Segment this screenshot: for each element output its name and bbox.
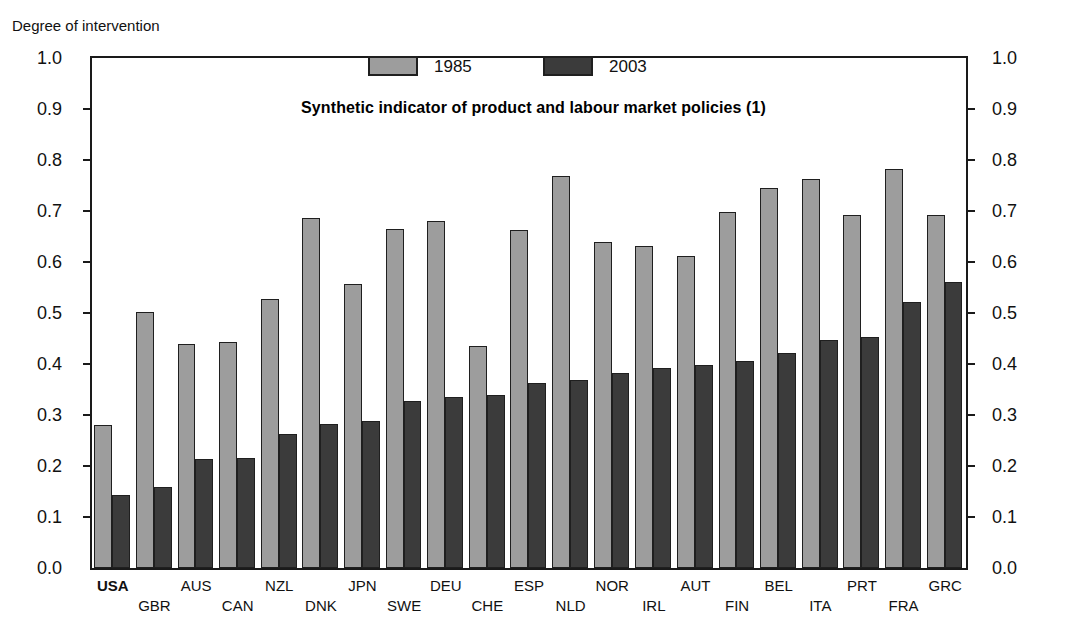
y-tick-mark-left [83, 312, 90, 314]
x-tick-label-che: CHE [457, 598, 517, 613]
y-tick-label-right: 1.0 [992, 49, 1017, 67]
bar-aut-1985 [677, 256, 695, 568]
y-tick-mark-left [83, 210, 90, 212]
x-tick-label-nzl: NZL [249, 578, 309, 593]
bar-gbr-1985 [136, 312, 154, 568]
bar-group [258, 58, 300, 568]
y-tick-label-right: 0.8 [992, 151, 1017, 169]
y-tick-mark-left [83, 261, 90, 263]
bar-ita-2003 [820, 340, 838, 568]
x-tick-label-grc: GRC [915, 578, 975, 593]
x-tick-label-nld: NLD [541, 598, 601, 613]
bar-group [383, 58, 425, 568]
bar-bel-1985 [760, 188, 778, 568]
y-tick-label-right: 0.6 [992, 253, 1017, 271]
y-tick-label-right: 0.2 [992, 457, 1017, 475]
bar-group [716, 58, 758, 568]
y-tick-mark-right [968, 516, 975, 518]
bar-che-1985 [469, 346, 487, 568]
y-tick-label-left: 0.0 [37, 559, 62, 577]
bar-fra-1985 [885, 169, 903, 568]
bar-nld-1985 [552, 176, 570, 568]
x-tick-label-prt: PRT [832, 578, 892, 593]
bar-fin-1985 [719, 212, 737, 568]
bar-usa-1985 [94, 425, 112, 568]
bar-grc-1985 [927, 215, 945, 568]
x-tick-label-esp: ESP [499, 578, 559, 593]
bar-jpn-1985 [344, 284, 362, 568]
bar-esp-2003 [528, 383, 546, 568]
x-tick-label-bel: BEL [749, 578, 809, 593]
bar-group [675, 58, 717, 568]
y-axis-caption: Degree of intervention [12, 18, 160, 33]
legend-label: 1985 [434, 58, 472, 75]
y-tick-label-right: 0.7 [992, 202, 1017, 220]
y-tick-mark-left [83, 159, 90, 161]
y-tick-mark-left [83, 414, 90, 416]
bar-group [508, 58, 550, 568]
bar-grc-2003 [945, 282, 963, 568]
bar-group [924, 58, 966, 568]
bar-group [217, 58, 259, 568]
bar-nzl-1985 [261, 299, 279, 568]
bar-aus-1985 [178, 344, 196, 568]
x-tick-label-aut: AUT [665, 578, 725, 593]
y-tick-label-left: 0.1 [37, 508, 62, 526]
legend-label: 2003 [609, 58, 647, 75]
bar-bel-2003 [778, 353, 796, 568]
y-tick-mark-right [968, 312, 975, 314]
y-tick-label-left: 0.3 [37, 406, 62, 424]
bar-dnk-1985 [302, 218, 320, 568]
y-tick-mark-right [968, 210, 975, 212]
bar-deu-2003 [445, 397, 463, 568]
bar-fin-2003 [736, 361, 754, 568]
y-tick-label-left: 0.2 [37, 457, 62, 475]
x-tick-label-fin: FIN [707, 598, 767, 613]
bar-irl-2003 [653, 368, 671, 568]
x-tick-label-dnk: DNK [291, 598, 351, 613]
bar-che-2003 [487, 395, 505, 568]
bar-can-2003 [237, 458, 255, 568]
y-tick-label-left: 0.5 [37, 304, 62, 322]
bar-group [591, 58, 633, 568]
bar-irl-1985 [635, 246, 653, 568]
x-tick-label-ita: ITA [790, 598, 850, 613]
y-tick-label-right: 0.3 [992, 406, 1017, 424]
y-tick-label-right: 0.4 [992, 355, 1017, 373]
y-tick-mark-left [83, 516, 90, 518]
bar-nor-2003 [612, 373, 630, 568]
legend-item-1985[interactable]: 1985 [368, 56, 472, 76]
x-tick-label-usa: USA [83, 578, 143, 593]
bar-dnk-2003 [320, 424, 338, 568]
y-tick-mark-right [968, 414, 975, 416]
x-tick-label-aus: AUS [166, 578, 226, 593]
bar-deu-1985 [427, 221, 445, 568]
bar-nld-2003 [570, 380, 588, 568]
x-tick-label-jpn: JPN [333, 578, 393, 593]
chart-subtitle: Synthetic indicator of product and labou… [0, 100, 1067, 116]
bar-usa-2003 [112, 495, 130, 568]
y-tick-mark-right [968, 261, 975, 263]
y-tick-label-right: 0.0 [992, 559, 1017, 577]
bar-group [92, 58, 134, 568]
bar-group [175, 58, 217, 568]
bar-group [883, 58, 925, 568]
bar-aus-2003 [195, 459, 213, 568]
x-tick-label-can: CAN [208, 598, 268, 613]
bar-aut-2003 [695, 365, 713, 568]
y-tick-mark-left [83, 465, 90, 467]
y-tick-label-right: 0.5 [992, 304, 1017, 322]
bar-gbr-2003 [154, 487, 172, 568]
bar-fra-2003 [903, 302, 921, 568]
bar-prt-1985 [843, 215, 861, 568]
y-tick-mark-right [968, 465, 975, 467]
bar-jpn-2003 [362, 421, 380, 568]
y-tick-label-left: 0.8 [37, 151, 62, 169]
bar-can-1985 [219, 342, 237, 568]
x-tick-label-irl: IRL [624, 598, 684, 613]
legend-item-2003[interactable]: 2003 [543, 56, 647, 76]
y-tick-mark-left [83, 363, 90, 365]
bar-group [550, 58, 592, 568]
bar-group [300, 58, 342, 568]
x-tick-label-nor: NOR [582, 578, 642, 593]
